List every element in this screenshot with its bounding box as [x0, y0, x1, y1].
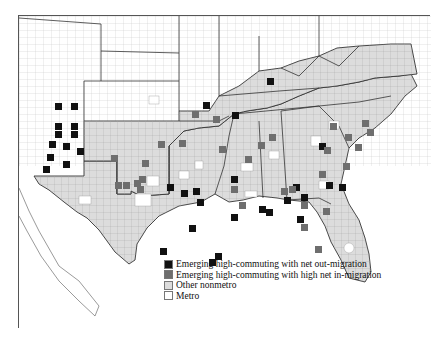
out-migration-county	[49, 141, 56, 148]
in-migration-county	[281, 188, 288, 195]
out-migration-county	[197, 199, 204, 206]
out-migration-county	[193, 188, 200, 195]
out-migration-county	[189, 225, 196, 232]
legend-item-metro: Metro	[164, 291, 381, 302]
out-migration-county	[203, 102, 210, 109]
swatch-out-migration	[164, 260, 173, 269]
in-migration-county	[289, 186, 296, 193]
in-migration-county	[245, 156, 252, 163]
out-migration-county	[55, 103, 62, 110]
in-migration-county	[192, 111, 199, 118]
in-migration-county	[355, 144, 362, 151]
out-migration-county	[267, 78, 274, 85]
in-migration-county	[362, 120, 369, 127]
out-migration-county	[301, 194, 308, 201]
out-migration-county	[71, 131, 78, 138]
in-migration-county	[179, 140, 186, 147]
out-migration-county	[326, 182, 333, 189]
out-migration-county	[43, 166, 50, 173]
legend-label: Emerging high-commuting with high net in…	[176, 270, 381, 281]
in-migration-county	[324, 147, 331, 154]
out-migration-county	[47, 154, 54, 161]
in-migration-county	[239, 202, 246, 209]
in-migration-county	[139, 176, 146, 183]
out-migration-county	[71, 103, 78, 110]
legend-item-other-nonmetro: Other nonmetro	[164, 280, 381, 291]
out-migration-county	[167, 184, 174, 191]
in-migration-county	[345, 134, 352, 141]
out-migration-county	[63, 161, 70, 168]
out-migration-county	[181, 190, 188, 197]
legend-item-in-migration: Emerging high-commuting with high net in…	[164, 270, 381, 281]
swatch-metro	[164, 291, 173, 300]
in-migration-county	[343, 163, 350, 170]
in-migration-county	[330, 123, 337, 130]
in-migration-county	[142, 160, 149, 167]
in-migration-county	[158, 141, 165, 148]
out-migration-county	[55, 123, 62, 130]
in-migration-county	[137, 186, 144, 193]
out-migration-county	[71, 123, 78, 130]
in-migration-county	[269, 134, 276, 141]
swatch-other-nonmetro	[164, 281, 173, 290]
out-migration-county	[231, 176, 238, 183]
in-migration-county	[315, 246, 322, 253]
out-migration-county	[63, 143, 70, 150]
legend-label: Emerging high-commuting with net out-mig…	[176, 259, 367, 270]
in-migration-county	[111, 155, 118, 162]
in-migration-county	[258, 142, 265, 149]
in-migration-county	[213, 116, 220, 123]
swatch-in-migration	[164, 270, 173, 279]
in-migration-county	[367, 129, 374, 136]
legend-label: Metro	[176, 291, 199, 302]
out-migration-county	[259, 206, 266, 213]
out-migration-county	[339, 184, 346, 191]
out-migration-county	[232, 112, 239, 119]
in-migration-county	[219, 146, 226, 153]
in-migration-county	[319, 171, 326, 178]
in-migration-county	[115, 182, 122, 189]
legend: Emerging high-commuting with net out-mig…	[164, 259, 381, 301]
in-migration-county	[323, 208, 330, 215]
out-migration-county	[284, 197, 291, 204]
legend-label: Other nonmetro	[176, 280, 236, 291]
legend-item-out-migration: Emerging high-commuting with net out-mig…	[164, 259, 381, 270]
out-migration-county	[160, 248, 167, 255]
in-migration-county	[301, 224, 308, 231]
out-migration-county	[231, 214, 238, 221]
in-migration-county	[231, 186, 238, 193]
in-migration-county	[301, 202, 308, 209]
out-migration-county	[297, 216, 304, 223]
out-migration-county	[266, 209, 273, 216]
out-migration-county	[55, 131, 62, 138]
out-migration-county	[77, 148, 84, 155]
in-migration-county	[123, 182, 130, 189]
